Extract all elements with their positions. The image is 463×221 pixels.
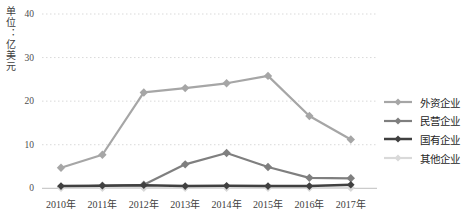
x-tick-label: 2014年 <box>205 199 249 211</box>
x-tick-label: 2015年 <box>246 199 290 211</box>
x-tick-label: 2013年 <box>163 199 207 211</box>
marker-private-enterprises <box>222 149 230 157</box>
y-tick-label: 30 <box>12 52 34 64</box>
marker-foreign-enterprises <box>347 135 355 143</box>
legend-marker-foreign-enterprises <box>384 96 414 108</box>
legend-label-foreign-enterprises: 外资企业 <box>420 95 460 110</box>
legend-label-other-enterprises: 其他企业 <box>420 151 460 166</box>
legend-item-state-owned-enterprises: 国有企业 <box>384 132 460 146</box>
x-tick-label: 2010年 <box>39 199 83 211</box>
x-tick-label: 2016年 <box>287 199 331 211</box>
legend-marker-other-enterprises <box>384 152 414 164</box>
y-tick-label: 20 <box>12 95 34 107</box>
series-line-private-enterprises <box>61 153 351 187</box>
y-tick-label: 10 <box>12 139 34 151</box>
y-tick-label: 0 <box>12 182 34 194</box>
x-tick-label: 2011年 <box>80 199 124 211</box>
marker-foreign-enterprises <box>181 84 189 92</box>
marker-private-enterprises <box>181 160 189 168</box>
legend-label-private-enterprises: 民营企业 <box>420 113 460 128</box>
plot-area <box>0 0 463 221</box>
marker-private-enterprises <box>305 174 313 182</box>
legend-label-state-owned-enterprises: 国有企业 <box>420 132 460 147</box>
x-tick-label: 2017年 <box>329 199 373 211</box>
marker-private-enterprises <box>264 163 272 171</box>
legend-item-foreign-enterprises: 外资企业 <box>384 95 460 109</box>
legend-marker-state-owned-enterprises <box>384 133 414 145</box>
marker-foreign-enterprises <box>222 79 230 87</box>
y-tick-label: 40 <box>12 8 34 20</box>
marker-foreign-enterprises <box>57 164 65 172</box>
x-tick-label: 2012年 <box>122 199 166 211</box>
legend-item-other-enterprises: 其他企业 <box>384 151 460 165</box>
legend-item-private-enterprises: 民营企业 <box>384 114 460 128</box>
legend-marker-private-enterprises <box>384 115 414 127</box>
line-chart: 单位：亿美元 403020100 2010年2011年2012年2013年201… <box>0 0 463 221</box>
